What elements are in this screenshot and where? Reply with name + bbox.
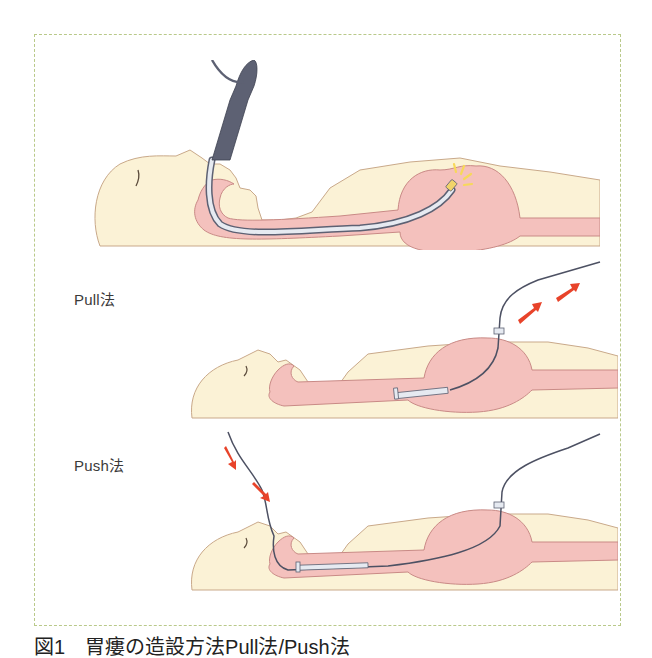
panel-endoscope-insertion [80,60,600,250]
push-method-illustration [188,430,618,592]
panel-push-method [188,430,618,592]
figure-caption: 図1 胃瘻の造設方法Pull法/Push法 [34,637,350,657]
bumper [393,388,398,399]
pull-method-illustration [188,258,618,420]
pull-arrow-icon [518,283,580,324]
endoscope-handle [212,60,257,160]
bumper [296,562,300,572]
push-arrow-icon [224,446,270,502]
panel-pull-method [188,258,618,420]
abdominal-stopper [494,502,504,508]
pull-method-label: Pull法 [74,288,115,309]
endoscope-insertion-illustration [80,60,600,250]
push-method-label: Push法 [74,454,124,475]
abdominal-stopper [494,328,504,334]
